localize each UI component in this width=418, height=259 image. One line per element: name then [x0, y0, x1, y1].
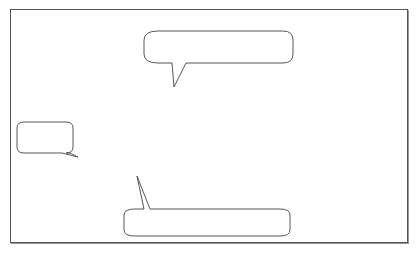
callout-3-bubble [144, 31, 293, 87]
diagram-connectors: I'm stopping this output because the SVG… [0, 0, 418, 259]
callout-2-bubble [124, 176, 290, 236]
callout-1-bubble [17, 122, 78, 157]
